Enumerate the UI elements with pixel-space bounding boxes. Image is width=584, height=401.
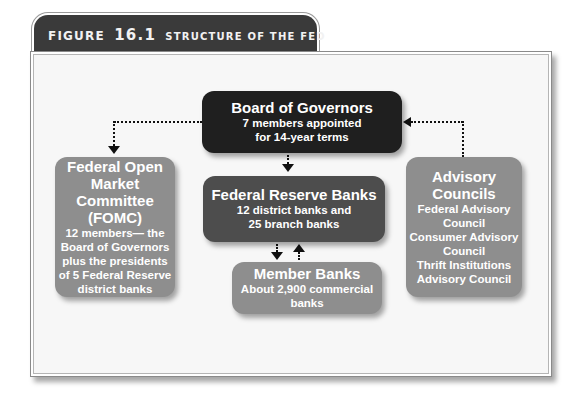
advisory-line: Council bbox=[443, 216, 485, 230]
connector-board-fomc-h bbox=[114, 121, 202, 123]
figure-title: FIGURE 16.1 STRUCTURE OF THE FED bbox=[48, 25, 326, 44]
arrowhead-up-icon bbox=[293, 244, 305, 252]
arrowhead-left-icon bbox=[403, 117, 411, 127]
fomc-line: district banks bbox=[78, 282, 153, 296]
connector-board-fomc-v bbox=[113, 121, 115, 146]
advisory-line: Federal Advisory bbox=[418, 202, 511, 216]
advisory-line: Council bbox=[443, 244, 485, 258]
frb-title: Federal Reserve Banks bbox=[211, 187, 376, 203]
fomc-line: of 5 Federal Reserve bbox=[59, 268, 172, 282]
advisory-councils-box: Advisory Councils Federal Advisory Counc… bbox=[406, 157, 522, 297]
frb-line: 12 district banks and bbox=[237, 203, 351, 217]
advisory-line: Advisory Council bbox=[417, 272, 512, 286]
figure-label: FIGURE bbox=[48, 29, 105, 43]
member-line: About 2,900 commercial banks bbox=[232, 282, 382, 310]
advisory-line: Consumer Advisory bbox=[410, 230, 519, 244]
board-of-governors-box: Board of Governors 7 members appointed f… bbox=[202, 91, 402, 153]
fomc-title: Market bbox=[91, 175, 139, 192]
board-title: Board of Governors bbox=[231, 100, 373, 116]
connector-board-frb bbox=[287, 155, 289, 164]
advisory-line: Thrift Institutions bbox=[417, 258, 512, 272]
connector-advisory-board-h bbox=[411, 121, 463, 123]
advisory-title: Councils bbox=[432, 185, 495, 202]
figure-caption: STRUCTURE OF THE FED bbox=[165, 31, 325, 42]
arrowhead-down-icon bbox=[271, 252, 283, 260]
board-line: 7 members appointed bbox=[243, 116, 362, 130]
arrowhead-down-icon bbox=[108, 146, 120, 154]
figure-number: 16.1 bbox=[114, 26, 156, 44]
connector-frb-member bbox=[276, 244, 278, 252]
board-line: for 14-year terms bbox=[255, 130, 348, 144]
member-banks-box: Member Banks About 2,900 commercial bank… bbox=[232, 262, 382, 314]
advisory-title: Advisory bbox=[432, 168, 496, 185]
member-title: Member Banks bbox=[254, 266, 361, 282]
arrowhead-down-icon bbox=[282, 164, 294, 172]
frb-line: 25 branch banks bbox=[249, 217, 340, 231]
fomc-box: Federal Open Market Committee (FOMC) 12 … bbox=[55, 157, 175, 297]
fomc-line: 12 members— the bbox=[65, 226, 164, 240]
fomc-title: Committee (FOMC) bbox=[55, 192, 175, 226]
connector-member-frb bbox=[298, 252, 300, 260]
federal-reserve-banks-box: Federal Reserve Banks 12 district banks … bbox=[203, 176, 385, 242]
fomc-line: plus the presidents bbox=[62, 254, 167, 268]
connector-advisory-board-v bbox=[462, 121, 464, 157]
fomc-title: Federal Open bbox=[67, 158, 163, 175]
fomc-line: Board of Governors bbox=[61, 240, 170, 254]
